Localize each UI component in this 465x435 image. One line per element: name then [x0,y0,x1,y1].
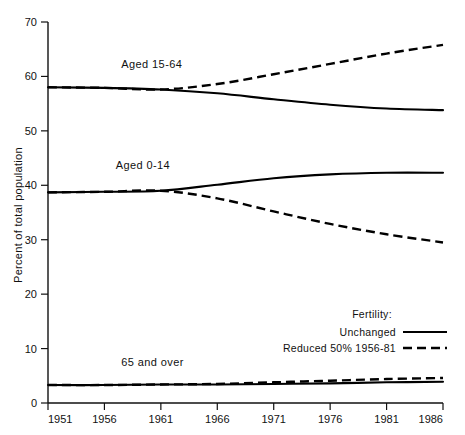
x-tick-label: 1976 [318,413,342,425]
legend: Fertility: Unchanged Reduced 50% 1956-81 [283,308,447,354]
y-tick-label: 70 [25,16,37,28]
curve-aged-0-14-reduced-50-1956-81 [48,190,443,242]
population-projection-chart: Percent of total population 010203040506… [0,0,465,435]
x-tick-label: 1961 [149,413,173,425]
curve-aged-0-14-unchanged [48,173,443,193]
x-tick-group: 19511956196119661971197619811986 [48,403,443,425]
y-tick-label: 10 [25,343,37,355]
y-tick-label: 60 [25,70,37,82]
y-tick-label: 40 [25,179,37,191]
x-tick-label: 1981 [374,413,398,425]
legend-title: Fertility: [352,308,392,320]
curve-aged-15-64-reduced-50-1956-81 [48,45,443,90]
annotation-label-0: Aged 15-64 [121,58,182,70]
chart-container: Percent of total population 010203040506… [0,0,465,435]
legend-label-unchanged: Unchanged [340,326,396,338]
legend-label-reduced: Reduced 50% 1956-81 [283,342,396,354]
y-axis-title: Percent of total population [12,147,24,283]
x-tick-label: 1966 [205,413,229,425]
y-tick-label: 50 [25,125,37,137]
x-tick-label: 1971 [261,413,285,425]
annotation-label-1: Aged 0-14 [116,159,170,171]
y-tick-label: 0 [31,397,37,409]
series-annotations: Aged 15-64Aged 0-1465 and over [116,58,184,368]
annotation-label-2: 65 and over [121,356,184,368]
x-tick-label: 1986 [419,413,443,425]
y-tick-group: 010203040506070 [25,16,48,409]
curve-aged-15-64-unchanged [48,87,443,110]
y-tick-label: 20 [25,288,37,300]
x-tick-label: 1956 [92,413,116,425]
y-tick-label: 30 [25,234,37,246]
x-tick-label: 1951 [48,413,72,425]
